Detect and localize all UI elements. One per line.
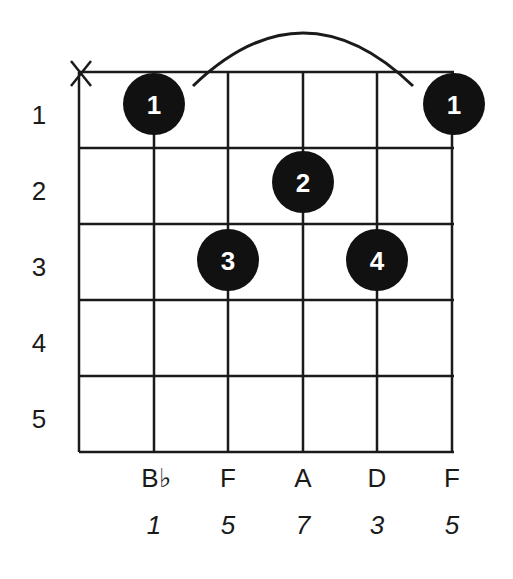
fret-number: 3	[24, 252, 54, 283]
note-name: A	[283, 463, 323, 494]
interval: 1	[134, 510, 174, 541]
note-name: F	[208, 463, 248, 494]
svg-text:2: 2	[296, 168, 310, 198]
interval: 5	[432, 510, 472, 541]
svg-text:1: 1	[147, 90, 161, 120]
interval: 5	[208, 510, 248, 541]
svg-text:1: 1	[447, 90, 461, 120]
note-name: D	[357, 463, 397, 494]
svg-text:4: 4	[370, 246, 385, 276]
note-name: F	[432, 463, 472, 494]
svg-text:3: 3	[221, 246, 235, 276]
muted-x-icon	[71, 61, 91, 86]
interval: 3	[357, 510, 397, 541]
interval: 7	[283, 510, 323, 541]
fret-number: 1	[24, 100, 54, 131]
fret-number: 5	[24, 404, 54, 435]
fret-number: 4	[24, 328, 54, 359]
note-name: B♭	[136, 463, 176, 494]
fret-number: 2	[24, 176, 54, 207]
